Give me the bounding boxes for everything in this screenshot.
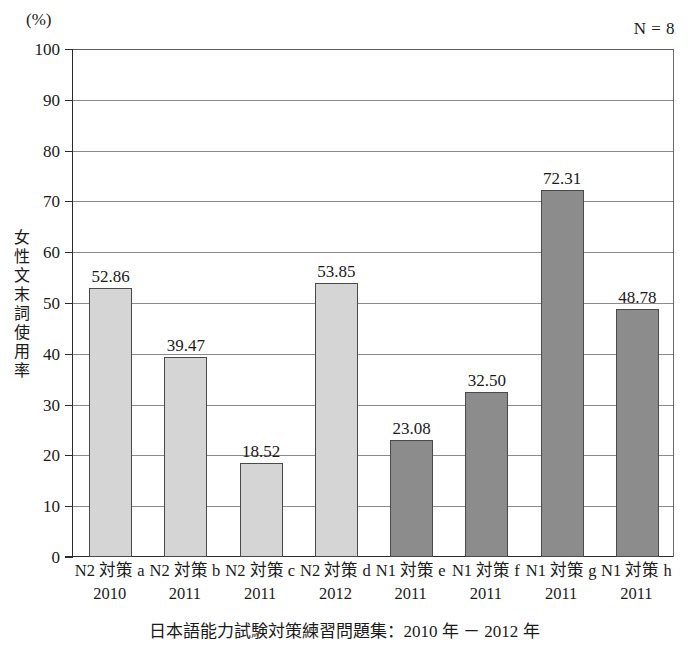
bar-value-label: 18.52 [242,442,280,461]
y-axis-tick-label: 50 [43,294,60,313]
y-axis-tick: 90 [65,100,73,101]
gridline [73,49,673,50]
x-axis-year-label: 2011 [448,582,523,605]
x-axis-year-label: 2011 [147,582,222,605]
gridline [73,100,673,101]
x-axis-category: N2 対策 d2012 [298,560,373,605]
chart-caption: 日本語能力試験対策練習問題集：2010 年 － 2012 年 [0,621,688,643]
y-axis-title-char: 末 [11,285,33,304]
y-axis-title-char: 文 [11,266,33,285]
bar: 52.86 [89,288,132,557]
y-axis-tick: 0 [65,557,73,558]
x-axis-category-label: N1 対策 f [452,561,520,580]
y-axis-tick: 100 [65,49,73,50]
bar: 72.31 [541,190,584,557]
y-axis-tick-label: 10 [43,497,60,516]
y-axis-tick-label: 0 [52,548,61,567]
bar-value-label: 32.50 [468,371,506,390]
x-axis-labels: N2 対策 a2010N2 対策 b2011N2 対策 c2011N2 対策 d… [72,560,674,612]
bar-value-label: 52.86 [92,267,130,286]
bar-value-label: 23.08 [393,419,431,438]
bar: 53.85 [315,283,358,557]
y-axis-tick: 40 [65,354,73,355]
y-axis-tick-label: 70 [43,192,60,211]
y-axis-title-char: 用 [11,342,33,361]
y-axis-title-char: 性 [11,247,33,266]
x-axis-category-label: N2 対策 b [150,561,221,580]
y-axis-unit-label: (%) [26,11,51,28]
bar-value-label: 53.85 [317,262,355,281]
bar: 32.50 [465,392,508,557]
x-axis-year-label: 2011 [524,582,599,605]
sample-size-label: N = 8 [634,20,675,37]
y-axis-title: 女性文末詞使用率 [11,228,33,380]
x-axis-category: N1 対策 f2011 [448,560,523,605]
x-axis-year-label: 2012 [298,582,373,605]
bar: 23.08 [390,440,433,557]
x-axis-category-label: N2 対策 c [225,561,295,580]
y-axis-tick-label: 30 [43,396,60,415]
y-axis-tick: 80 [65,151,73,152]
y-axis-tick: 50 [65,303,73,304]
x-axis-category-label: N1 対策 g [526,561,597,580]
bar: 48.78 [616,309,659,557]
x-axis-category: N1 対策 g2011 [524,560,599,605]
y-axis-tick: 60 [65,252,73,253]
y-axis-tick: 10 [65,506,73,507]
y-axis-title-char: 女 [11,228,33,247]
x-axis-category-label: N2 対策 d [300,561,371,580]
gridline [73,151,673,152]
y-axis-tick-label: 20 [43,446,60,465]
chart-figure: (%) N = 8 女性文末詞使用率 010203040506070809010… [0,0,688,670]
x-axis-category: N2 対策 c2011 [223,560,298,605]
x-axis-category-label: N1 対策 e [376,561,446,580]
plot-area: 010203040506070809010052.8639.4718.5253.… [72,49,674,557]
y-axis-tick-label: 90 [43,91,60,110]
y-axis-title-char: 詞 [11,304,33,323]
x-axis-category: N2 対策 a2010 [72,560,147,605]
x-axis-year-label: 2011 [373,582,448,605]
bar: 18.52 [240,463,283,557]
y-axis-tick: 70 [65,201,73,202]
y-axis-title-char: 使 [11,323,33,342]
x-axis-category: N1 対策 h2011 [599,560,674,605]
bar: 39.47 [164,357,207,558]
plot-inner: 010203040506070809010052.8639.4718.5253.… [73,49,673,557]
bar-value-label: 39.47 [167,336,205,355]
y-axis-title-char: 率 [11,361,33,380]
x-axis-category-label: N1 対策 h [601,561,672,580]
y-axis-tick: 30 [65,405,73,406]
y-axis-tick-label: 80 [43,142,60,161]
bar-value-label: 72.31 [543,169,581,188]
y-axis-tick: 20 [65,455,73,456]
y-axis-tick-label: 40 [43,345,60,364]
y-axis-tick-label: 60 [43,243,60,262]
x-axis-year-label: 2011 [599,582,674,605]
x-axis-category: N1 対策 e2011 [373,560,448,605]
bar-value-label: 48.78 [618,288,656,307]
x-axis-year-label: 2011 [223,582,298,605]
x-axis-category: N2 対策 b2011 [147,560,222,605]
x-axis-year-label: 2010 [72,582,147,605]
x-axis-category-label: N2 対策 a [75,561,145,580]
y-axis-tick-label: 100 [35,40,61,59]
